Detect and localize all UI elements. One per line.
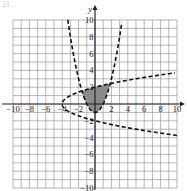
x-tick-label: 8 bbox=[158, 104, 162, 114]
y-tick-label: 8 bbox=[89, 32, 93, 42]
x-tick-label: −4 bbox=[58, 104, 68, 114]
x-tick-label: 6 bbox=[142, 104, 146, 114]
y-axis-arrow-icon bbox=[93, 5, 98, 10]
y-tick-label: 2 bbox=[89, 82, 93, 92]
x-tick-label: −8 bbox=[25, 104, 34, 114]
x-tick-label: 2 bbox=[109, 104, 113, 114]
y-tick-label: −2 bbox=[84, 116, 93, 126]
x-tick-label: −2 bbox=[74, 104, 83, 114]
graph: −10−8−6−4−2246810−10−8−6−4−2246810y bbox=[0, 0, 187, 191]
y-axis-label: y bbox=[87, 4, 92, 14]
x-tick-label: 10 bbox=[173, 104, 182, 114]
x-tick-label: −6 bbox=[41, 104, 50, 114]
y-tick-label: −6 bbox=[84, 149, 93, 159]
y-tick-label: −8 bbox=[84, 166, 93, 176]
y-tick-label: 6 bbox=[89, 49, 93, 59]
y-tick-label: 10 bbox=[85, 15, 94, 25]
x-tick-label: −10 bbox=[6, 104, 19, 114]
x-tick-label: 4 bbox=[126, 104, 131, 114]
y-tick-label: −4 bbox=[84, 133, 94, 143]
y-tick-label: −10 bbox=[80, 183, 93, 191]
